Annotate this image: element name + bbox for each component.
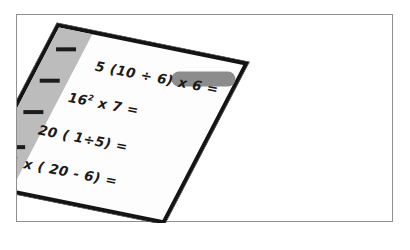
equation-line: 5 (10 ÷ 6) x 6 = (94, 58, 220, 98)
equation-line: 20 ( 1÷5) = (37, 122, 129, 155)
equation-list: 5 (10 ÷ 6) x 6 = 162 x 7 = 20 ( 1÷5) = 1… (17, 27, 243, 220)
image-frame: 5 (10 ÷ 6) x 6 = 162 x 7 = 20 ( 1÷5) = 1… (16, 14, 393, 222)
illustration-scene: 5 (10 ÷ 6) x 6 = 162 x 7 = 20 ( 1÷5) = 1… (0, 0, 410, 250)
equation-line: 162 x 7 = (67, 89, 140, 118)
worksheet-paper: 5 (10 ÷ 6) x 6 = 162 x 7 = 20 ( 1÷5) = 1… (17, 23, 249, 223)
equation-line: 1 x ( 20 - 6) = (17, 152, 119, 189)
equation-tail: x 7 = (92, 94, 140, 118)
equation-base: 16 (67, 89, 89, 108)
paper-stage: 5 (10 ÷ 6) x 6 = 162 x 7 = 20 ( 1÷5) = 1… (17, 15, 394, 223)
